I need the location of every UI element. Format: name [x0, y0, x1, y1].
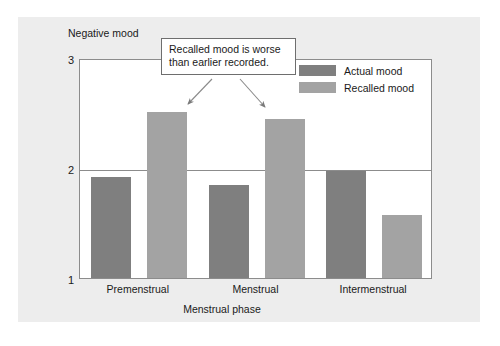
legend-item-actual: Actual mood — [299, 62, 414, 79]
y-axis-tick-label: 1 — [68, 274, 74, 286]
legend-label-recalled-mood: Recalled mood — [344, 82, 414, 94]
bar-premenstrual-recalled-mood — [147, 112, 187, 278]
bar-intermenstrual-recalled-mood — [382, 215, 422, 278]
bar-menstrual-recalled-mood — [265, 119, 305, 279]
legend-swatch-recalled-mood — [299, 82, 336, 93]
chart-legend: Actual mood Recalled mood — [299, 60, 414, 98]
chart-figure: Negative mood 123 Menstrual phase Actual… — [0, 0, 500, 346]
x-axis-category-label: Premenstrual — [107, 283, 169, 295]
gridline — [80, 170, 431, 171]
legend-item-recalled: Recalled mood — [299, 79, 414, 96]
bar-menstrual-actual-mood — [209, 185, 249, 279]
legend-swatch-actual-mood — [299, 65, 336, 76]
x-axis-category-label: Intermenstrual — [340, 283, 407, 295]
y-axis-tick-label: 2 — [68, 164, 74, 176]
bar-premenstrual-actual-mood — [91, 177, 131, 278]
bar-intermenstrual-actual-mood — [326, 171, 366, 278]
x-axis-title-text: Menstrual phase — [183, 303, 261, 315]
callout-box: Recalled mood is worse than earlier reco… — [161, 38, 296, 75]
y-axis-title: Negative mood — [68, 27, 139, 39]
callout-line-2: than earlier recorded. — [169, 56, 288, 69]
callout-line-1: Recalled mood is worse — [169, 43, 288, 56]
x-axis-category-label: Menstrual — [232, 283, 278, 295]
x-axis-title: Menstrual phase — [0, 303, 500, 315]
legend-label-actual-mood: Actual mood — [344, 65, 402, 77]
y-axis-tick-label: 3 — [68, 54, 74, 66]
